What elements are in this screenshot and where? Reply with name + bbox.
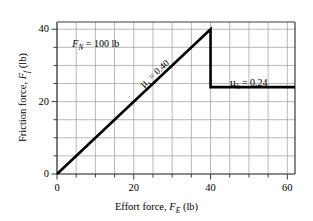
x-axis-title: Effort force, FE (lb) (0, 202, 313, 215)
y-tick-label: 40 (27, 24, 49, 35)
annotation-normal-force: FN = 100 lb (72, 39, 119, 52)
x-tick-label: 40 (205, 183, 216, 194)
y-axis-title: Friction force, Ff (lb) (18, 53, 31, 142)
normal-force-value: = 100 lb (83, 38, 119, 49)
x-tick-label: 20 (129, 183, 140, 194)
x-tick-label: 0 (54, 183, 59, 194)
x-axis-title-unit: (lb) (180, 201, 198, 212)
x-axis-title-prefix: Effort force, (115, 201, 169, 212)
friction-force-chart: 0 20 40 0 20 40 60 Effort force, FE (lb)… (0, 0, 313, 221)
y-tick-label: 0 (27, 169, 49, 180)
y-axis-title-unit: (lb) (17, 53, 28, 71)
x-tick-label: 60 (282, 183, 293, 194)
mu-kinetic-value: = 0.24 (239, 77, 267, 88)
y-axis-title-symbol: F (17, 73, 28, 79)
annotation-kinetic-coefficient: μk = 0.24 (230, 78, 268, 91)
y-axis-title-subscript: f (22, 71, 31, 73)
y-axis-title-prefix: Friction force, (17, 79, 28, 142)
